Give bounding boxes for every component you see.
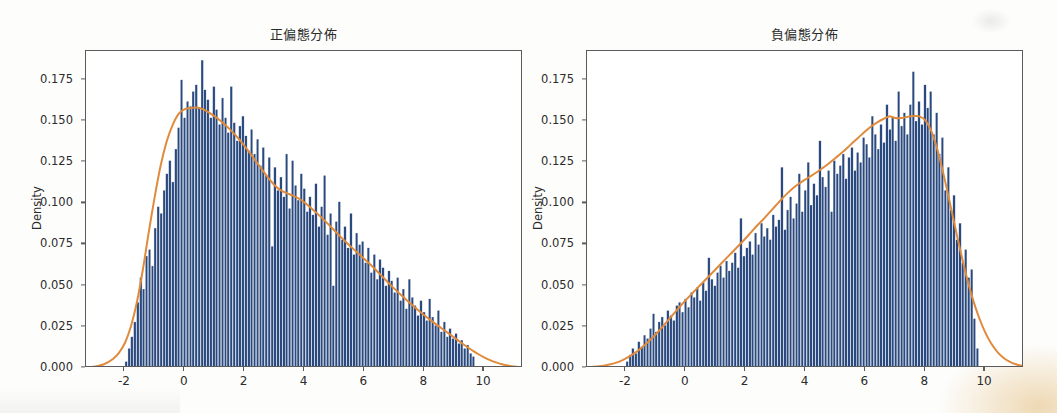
histogram-bar [719, 266, 721, 367]
histogram-bar [743, 256, 745, 367]
y-tick-mark [582, 161, 586, 162]
histogram-bar [956, 240, 958, 367]
histogram-bar [344, 226, 346, 367]
histogram-bar [915, 121, 917, 367]
histogram-bar [446, 337, 448, 367]
histogram-bar [874, 134, 876, 367]
histogram-bars-right [626, 72, 979, 367]
histogram-bar [350, 213, 352, 367]
histogram-bar [137, 302, 139, 367]
histogram-bar [795, 203, 797, 367]
x-tick-mark [684, 367, 685, 371]
histogram-bar [402, 289, 404, 367]
histogram-bar [877, 149, 879, 367]
histogram-bar [830, 212, 832, 367]
histogram-bar [883, 142, 885, 367]
histogram-bar [676, 305, 678, 367]
histogram-bar [725, 261, 727, 367]
histogram-bar [405, 309, 407, 367]
histogram-bar [678, 302, 680, 367]
histogram-bar [248, 151, 250, 367]
histogram-bar [807, 162, 809, 367]
histogram-bar [262, 147, 264, 367]
x-axis-ticks-left: -20246810 [85, 367, 522, 397]
histogram-bar [749, 241, 751, 367]
histogram-bar [819, 141, 821, 367]
histogram-bar [233, 123, 235, 367]
histogram-bar [728, 271, 730, 367]
histogram-bar [673, 320, 675, 367]
histogram-bar [894, 141, 896, 367]
histogram-bar [361, 241, 363, 367]
histogram-bar [236, 141, 238, 367]
histogram-bar [423, 312, 425, 367]
histogram-bar [921, 124, 923, 367]
plot-area-right [587, 51, 1023, 367]
histogram-bar [716, 272, 718, 367]
histogram-bar [786, 210, 788, 367]
histogram-bar [358, 244, 360, 367]
chart-panel-negative-skew: 負偏態分佈 Density 0.0000.0250.0500.0750.1000… [586, 50, 1023, 367]
histogram-bar [297, 200, 299, 367]
histogram-bar [414, 305, 416, 367]
histogram-bar [367, 248, 369, 367]
histogram-bar [172, 182, 174, 367]
histogram-bar [420, 300, 422, 367]
histogram-bar [842, 154, 844, 367]
histogram-bar [390, 281, 392, 367]
histogram-bar [221, 98, 223, 367]
histogram-bar [833, 161, 835, 367]
x-tick-mark [482, 367, 483, 371]
histogram-bar [353, 254, 355, 367]
histogram-bar [242, 116, 244, 367]
histogram-bar [638, 342, 640, 367]
x-tick-label: 10 [976, 374, 991, 388]
x-axis-ticks-right: -20246810 [586, 367, 1023, 397]
histogram-bar [769, 240, 771, 367]
x-tick-mark [864, 367, 865, 371]
histogram-bar [810, 205, 812, 367]
histogram-bar [283, 197, 285, 367]
y-tick-mark [582, 78, 586, 79]
histogram-bar [944, 190, 946, 367]
histogram-bar [871, 116, 873, 367]
histogram-bar [643, 335, 645, 367]
x-tick-mark [744, 367, 745, 371]
histogram-bar [918, 101, 920, 367]
histogram-bar [198, 108, 200, 367]
y-tick-mark [81, 161, 85, 162]
histogram-bar [722, 277, 724, 367]
histogram-bar [294, 185, 296, 367]
histogram-bar [880, 124, 882, 367]
chart-title-left: 正偏態分佈 [85, 24, 522, 43]
y-tick-mark [582, 243, 586, 244]
histogram-bar [180, 80, 182, 367]
histogram-bar [711, 279, 713, 367]
histogram-bar [177, 128, 179, 367]
histogram-bar [775, 226, 777, 367]
x-tick-mark [243, 367, 244, 371]
histogram-bar [862, 137, 864, 367]
histogram-bar [160, 213, 162, 367]
histogram-bar [370, 272, 372, 367]
histogram-bar [195, 85, 197, 367]
histogram-bar [740, 218, 742, 367]
y-tick-mark [582, 325, 586, 326]
y-tick-label: 0.125 [541, 154, 574, 168]
figure: 正偏態分佈 Density 0.0000.0250.0500.0750.1000… [0, 0, 1057, 413]
y-tick-mark [582, 284, 586, 285]
histogram-bar [973, 319, 975, 367]
histogram-bar [134, 322, 136, 367]
histogram-bar [868, 157, 870, 367]
histogram-bar [824, 187, 826, 367]
histogram-bar [329, 213, 331, 367]
x-tick-mark [363, 367, 364, 371]
histogram-bar [274, 167, 276, 367]
histogram-bar [373, 254, 375, 367]
histogram-bar [754, 233, 756, 367]
x-tick-mark [183, 367, 184, 371]
histogram-bar [891, 118, 893, 367]
histogram-bar [903, 113, 905, 367]
x-tick-label: 2 [240, 374, 248, 388]
y-tick-label: 0.100 [40, 195, 73, 209]
